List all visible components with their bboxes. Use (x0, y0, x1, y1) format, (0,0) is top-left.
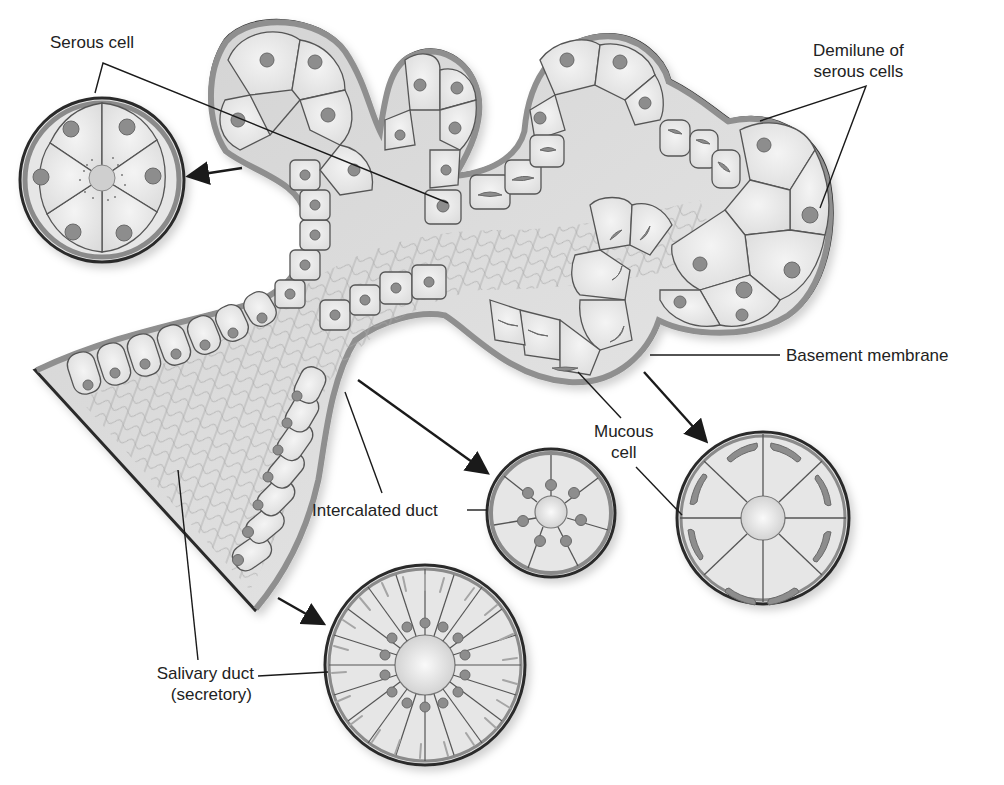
label-mucous-line2: cell (594, 442, 654, 463)
intercalated-duct-leader (345, 392, 382, 493)
label-basement-membrane: Basement membrane (786, 345, 949, 366)
label-salivary-duct-line2: (secretory) (130, 684, 254, 705)
label-salivary-duct-line1: Salivary duct (130, 663, 254, 684)
intercalated-duct-inset (487, 449, 615, 577)
connective-tissue-network (80, 200, 720, 590)
salivary-duct-leader-2 (258, 672, 328, 676)
label-mucous-cell: Mucous cell (594, 421, 654, 463)
label-mucous-line1: Mucous (594, 421, 654, 442)
arrow-to-salivary-inset (278, 598, 322, 623)
salivary-duct-inset (325, 565, 525, 765)
serous-acinus-inset (20, 98, 184, 262)
mucous-cell-leader-2 (636, 467, 682, 515)
label-intercalated-duct: Intercalated duct (312, 500, 438, 521)
label-serous-cell: Serous cell (50, 32, 134, 53)
label-demilune-line2: serous cells (813, 61, 904, 82)
label-demilune: Demilune of serous cells (813, 40, 904, 82)
mucous-acinus-inset (677, 432, 849, 605)
label-demilune-line1: Demilune of (813, 40, 904, 61)
label-salivary-duct: Salivary duct (secretory) (130, 663, 254, 705)
arrow-to-serous-inset (190, 168, 242, 176)
arrow-to-intercalated-inset (358, 380, 486, 472)
